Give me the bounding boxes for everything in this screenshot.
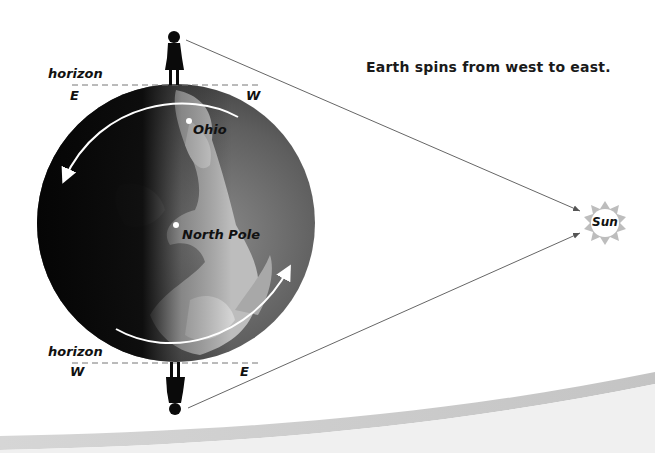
north-pole-label: North Pole [182,227,260,242]
diagram-stage: horizon E W horizon W E Ohio North Pole … [0,0,655,453]
ohio-marker [186,118,192,124]
bottom-person-silhouette-icon [166,362,185,415]
bottom-east-label: E [240,364,249,379]
top-west-label: W [246,88,260,103]
top-horizon-label: horizon [48,66,103,81]
north-pole-marker [173,222,179,228]
bottom-horizon-label: horizon [48,344,103,359]
caption-text: Earth spins from west to east. [366,59,611,75]
bottom-west-label: W [70,364,84,379]
top-east-label: E [70,88,79,103]
ohio-label: Ohio [193,122,227,137]
earth-globe [37,84,315,362]
top-person-silhouette-icon [165,31,184,85]
bottom-swoosh [0,372,655,453]
sun-label: Sun [592,215,618,229]
